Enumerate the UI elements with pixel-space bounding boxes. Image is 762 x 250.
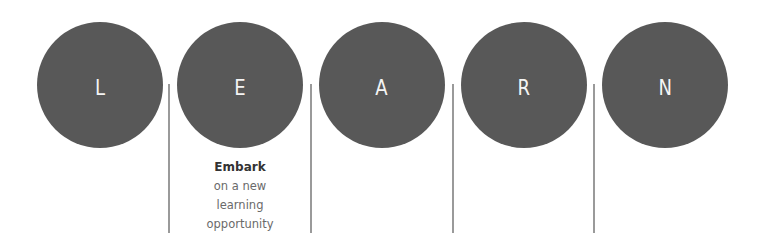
circle-e: E xyxy=(177,22,303,148)
divider-3 xyxy=(452,84,454,233)
letter-e: E xyxy=(234,75,245,100)
letter-r: R xyxy=(518,75,531,100)
letter-l: L xyxy=(95,75,105,100)
letter-a: A xyxy=(376,75,388,100)
letter-n: N xyxy=(658,75,672,100)
caption-heading: Embark xyxy=(175,158,305,177)
circle-a: A xyxy=(319,22,445,148)
caption-line-1: on a new xyxy=(175,177,305,196)
circle-n: N xyxy=(602,22,728,148)
caption-line-3: opportunity xyxy=(175,215,305,234)
caption-line-2: learning xyxy=(175,196,305,215)
divider-4 xyxy=(593,84,595,233)
caption-e: Embark on a new learning opportunity xyxy=(175,158,305,234)
divider-2 xyxy=(310,84,312,233)
circle-l: L xyxy=(37,22,163,148)
circle-r: R xyxy=(461,22,587,148)
divider-1 xyxy=(168,84,170,233)
